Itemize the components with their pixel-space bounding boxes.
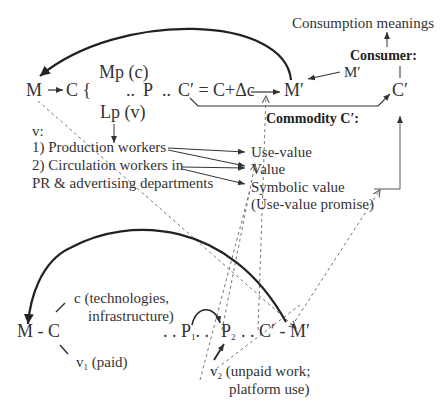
consumption-meanings-label: Consumption meanings (292, 16, 434, 31)
c-infrastructure-label: infrastructure) (88, 309, 174, 324)
worker-line-1: 1) Production workers (32, 140, 166, 155)
p2-label: P2 (221, 322, 236, 342)
m-prime-label: M′ (284, 81, 304, 99)
mp-label: Mp (c) (99, 63, 148, 81)
p2-subscript: 2 (231, 332, 236, 342)
m-label: M (26, 81, 42, 99)
p1-suffix: . . (196, 321, 210, 341)
v1-paid-label: v1 (paid) (76, 355, 128, 372)
p1-prefix: . . P (163, 321, 191, 341)
c-prime-m-prime-label: . . C′ - M′ (241, 322, 310, 340)
dots-1: .. (126, 81, 135, 99)
m-c-label: M - C (17, 322, 60, 340)
v1-symbol: v (76, 354, 84, 370)
v2-subscript: 2 (218, 371, 223, 381)
v2-platform-label: platform use) (229, 382, 309, 397)
value-label: Value (251, 162, 285, 177)
consumer-m-prime: M′ (344, 65, 361, 80)
use-value-promise-label: (Use-value promise) (251, 197, 374, 212)
worker-line-2: 2) Circulation workers in (32, 158, 183, 173)
v1-subscript: 1 (84, 362, 89, 372)
p-label: P (143, 81, 153, 99)
v2-symbol: v (210, 363, 218, 379)
top-return-arc (40, 29, 291, 80)
c-technologies-label: c (technologies, (74, 291, 169, 306)
use-value-label: Use-value (251, 145, 312, 160)
dots-2: .. (162, 81, 171, 99)
consumer-label: Consumer: (350, 49, 417, 63)
v1-paid-text: (paid) (92, 354, 128, 370)
worker-line-3: PR & advertising departments (32, 176, 213, 191)
c-prime-equation: C′ = C+Δc (178, 81, 255, 99)
v2-unpaid-label: v2 (unpaid work; (210, 364, 310, 381)
commodity-label: Commodity C′: (266, 112, 359, 126)
v-label: v: (32, 124, 44, 139)
p1-label: . . P1. . (163, 322, 209, 342)
lp-label: Lp (v) (100, 103, 145, 121)
c-brace-label: C { (66, 81, 91, 99)
consumer-c-prime: C′ (392, 81, 408, 99)
p2-symbol: P (221, 321, 231, 341)
v2-unpaid-text: (unpaid work; (226, 363, 311, 379)
symbolic-value-label: Symbolic value (251, 180, 345, 195)
